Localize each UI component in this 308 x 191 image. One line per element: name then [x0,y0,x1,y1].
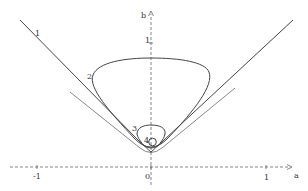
b-axis: b 1 [141,11,154,185]
curve-1 [20,20,293,148]
y-tick-label-1: 1 [145,36,150,45]
x-tick-label-0: 0 [145,172,150,181]
x-axis-label: a [294,171,299,180]
curve-label-3: 3 [132,124,137,133]
curve-label-1: 1 [35,29,40,38]
curve-label-2: 2 [87,72,92,81]
a-axis: -1 0 1 a [10,165,299,183]
curve-label-4: 4 [144,136,149,145]
y-axis-label: b [141,11,146,20]
curve-4 [149,138,157,146]
x-tick-label-1: 1 [264,173,269,182]
diagram-figure: -1 0 1 a b 1 1 2 3 4 [0,0,308,191]
x-tick-label-minus1: -1 [33,172,41,181]
curve-1-inner-strand [70,88,235,153]
